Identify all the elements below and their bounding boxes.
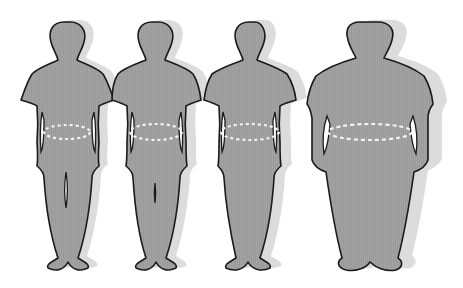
- figure-3-obese: [204, 20, 307, 270]
- figure-1-normal: [21, 20, 123, 270]
- figure-2-leg-gap: [154, 183, 156, 203]
- figure-4-severely-obese: [307, 20, 447, 271]
- body-size-diagram: [0, 0, 463, 288]
- figure-2-overweight: [112, 20, 211, 270]
- figure-1-leg-gap: [65, 172, 68, 208]
